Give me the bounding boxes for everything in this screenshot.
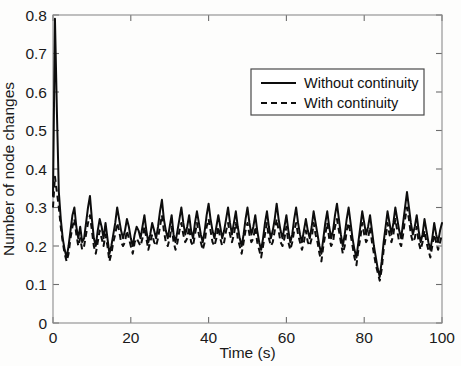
x-tick-label: 80	[356, 329, 374, 346]
series-line-2	[53, 177, 442, 281]
y-tick-label: 0.3	[25, 199, 47, 216]
y-axis-title: Number of node changes	[0, 82, 17, 256]
x-tick-label: 0	[49, 329, 58, 346]
y-axis-tick-labels: 00.10.20.30.40.50.60.70.8	[25, 7, 47, 332]
y-tick-label: 0.2	[25, 238, 47, 255]
x-tick-label: 40	[200, 329, 218, 346]
y-tick-label: 0.6	[25, 84, 47, 101]
x-tick-label: 20	[122, 329, 140, 346]
series-line-1	[53, 19, 442, 277]
data-series-layer	[53, 19, 442, 281]
y-tick-label: 0.4	[25, 161, 47, 178]
x-axis-title: Time (s)	[219, 344, 275, 361]
chart-legend[interactable]: Without continuity With continuity	[251, 69, 424, 115]
figure-container: 00.10.20.30.40.50.60.70.8 020406080100 T…	[0, 0, 461, 366]
x-tick-label: 60	[278, 329, 296, 346]
y-tick-label: 0	[38, 315, 47, 332]
y-tick-label: 0.8	[25, 7, 47, 24]
y-tick-label: 0.7	[25, 45, 47, 62]
x-tick-label: 100	[429, 329, 455, 346]
plot-frame	[53, 15, 442, 323]
legend-label-without-continuity: Without continuity	[304, 75, 419, 91]
legend-label-with-continuity: With continuity	[304, 95, 399, 111]
y-tick-label: 0.1	[25, 276, 47, 293]
axis-tickmarks	[53, 15, 442, 323]
chart-canvas: 00.10.20.30.40.50.60.70.8 020406080100 T…	[0, 0, 461, 366]
y-tick-label: 0.5	[25, 122, 47, 139]
